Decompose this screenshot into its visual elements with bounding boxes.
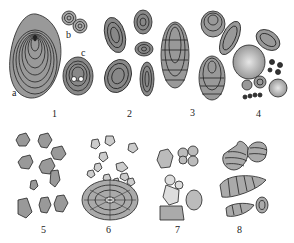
panel-3-granules (161, 11, 245, 100)
panel-number-4: 4 (256, 108, 261, 119)
panel-number-8: 8 (237, 224, 242, 235)
panel-number-6: 6 (106, 224, 111, 235)
granule-1c (63, 57, 93, 95)
panel-number-7: 7 (175, 224, 180, 235)
panel-number-1: 1 (52, 108, 57, 119)
label-1c: c (81, 47, 85, 58)
panel-6-granules (82, 136, 138, 220)
panel-4-granules (233, 25, 287, 99)
granule-1a (10, 14, 61, 98)
panel-number-5: 5 (41, 224, 46, 235)
panel-2-granules (100, 10, 154, 96)
panel-number-2: 2 (127, 108, 132, 119)
panel-number-3: 3 (190, 107, 195, 118)
panel-7-granules (157, 146, 202, 220)
label-1b: b (66, 29, 71, 40)
starch-granule-figure (0, 0, 294, 243)
label-1a: a (12, 87, 16, 98)
panel-8-granules (220, 141, 268, 216)
panel-5-granules (16, 133, 68, 218)
